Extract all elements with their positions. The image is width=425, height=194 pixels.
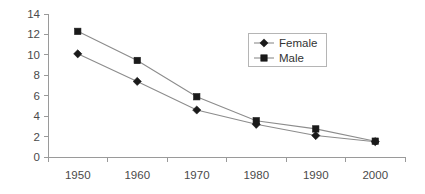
series-line-female [78,54,376,142]
series-line-male [78,31,376,141]
y-axis-tick-label: 10 [27,49,40,61]
x-axis-tick-label: 1980 [243,169,269,181]
data-point-male-1950 [75,28,81,34]
y-axis-tick-label: 6 [34,90,40,102]
data-point-male-1960 [134,57,140,63]
y-axis-tick-label: 2 [34,131,40,143]
y-axis-tick-label: 4 [34,110,41,122]
data-point-female-1960 [133,77,141,85]
data-point-male-1990 [313,126,319,132]
data-point-female-1990 [312,131,320,139]
y-axis-tick-label: 12 [27,28,40,40]
legend-label-male: Male [279,52,304,64]
data-point-female-1970 [193,106,201,114]
data-point-female-1950 [74,50,82,58]
legend-label-female: Female [279,37,317,49]
data-point-male-1970 [194,94,200,100]
x-axis-tick-label: 1990 [303,169,329,181]
chart-canvas: 02468101214195019601970198019902000Femal… [0,0,425,194]
x-axis-tick-label: 1950 [65,169,91,181]
y-axis-tick-label: 8 [34,69,40,81]
x-axis-tick-label: 2000 [362,169,388,181]
line-chart: 02468101214195019601970198019902000Femal… [0,0,425,194]
x-axis-tick-label: 1960 [124,169,150,181]
legend-marker-male [261,55,267,61]
y-axis-tick-label: 14 [27,8,40,20]
data-point-male-1980 [253,118,259,124]
x-axis-tick-label: 1970 [184,169,210,181]
y-axis-tick-label: 0 [34,151,40,163]
data-point-male-2000 [372,138,378,144]
